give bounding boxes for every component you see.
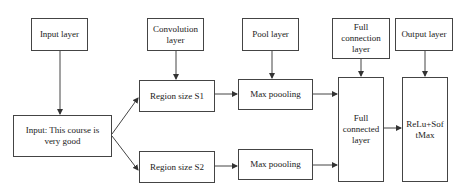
input-layer-label: Input layer <box>31 18 88 51</box>
max-pooling-node-1: Max poooling <box>238 79 313 110</box>
relu-softmax-node: ReLu+SoftMax <box>402 77 448 182</box>
full-connection-layer-label: Full connection layer <box>332 18 390 59</box>
region-size-s1-node: Region size S1 <box>139 80 215 112</box>
convolution-layer-label: Convolution layer <box>147 18 204 51</box>
region-size-s2-node: Region size S2 <box>139 151 215 183</box>
max-pooling-node-2: Max poooling <box>238 149 313 180</box>
full-connected-layer-node: Full connected layer <box>338 77 384 182</box>
input-sentence-node: Input: This course is very good <box>13 115 112 157</box>
pool-layer-label: Pool layer <box>242 18 299 51</box>
output-layer-label: Output layer <box>395 18 453 51</box>
